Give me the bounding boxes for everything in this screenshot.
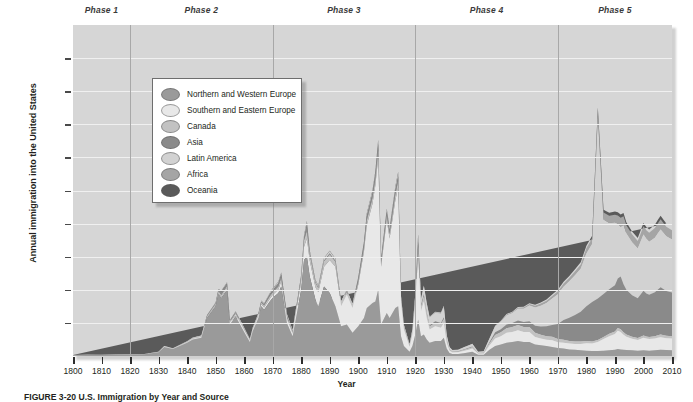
y-tick-mark [65,124,71,126]
phase-label-4: Phase 4 [415,5,558,15]
legend-item[interactable]: Southern and Eastern Europe [161,102,293,118]
x-tick-mark [672,357,674,364]
legend-swatch-icon [161,120,180,133]
y-tick-mark [65,157,71,159]
legend-swatch-icon [161,88,180,101]
x-tick-mark [444,357,446,364]
legend-label: Northern and Western Europe [187,90,296,99]
legend-label: Canada [187,122,216,131]
y-axis-title: Annual immigration into the United State… [28,33,38,313]
x-tick-mark [130,357,132,364]
x-tick-mark [615,357,617,364]
legend-label: Asia [187,138,203,147]
phase-divider [130,25,131,356]
legend-label: Southern and Eastern Europe [187,106,295,115]
y-tick-mark [65,58,71,60]
legend-item[interactable]: Oceania [161,182,293,198]
legend-swatch-icon [161,152,180,165]
x-tick-mark [358,357,360,364]
legend-label: Oceania [187,186,218,195]
x-tick-mark [73,357,75,364]
x-tick-mark [586,357,588,364]
y-tick-mark [65,257,71,259]
x-tick-mark [415,357,417,364]
y-tick-mark [65,290,71,292]
legend-swatch-icon [161,104,180,117]
phase-label-3: Phase 3 [273,5,416,15]
x-axis-title: Year [0,379,693,389]
x-tick-mark [387,357,389,364]
y-tick-mark [65,323,71,325]
phase-divider [558,25,559,356]
gridline [73,290,672,291]
y-tick-mark [65,224,71,226]
legend-swatch-icon [161,168,180,181]
legend-swatch-icon [161,136,180,149]
gridline [73,323,672,324]
figure-caption: FIGURE 3-20 U.S. Immigration by Year and… [24,392,664,402]
x-tick-mark [159,357,161,364]
x-tick-mark [187,357,189,364]
legend-swatch-icon [161,184,180,197]
y-tick-mark [65,91,71,93]
x-tick-mark [501,357,503,364]
x-tick-mark [301,357,303,364]
x-tick-mark [643,357,645,364]
gridline [73,257,672,258]
x-tick-mark [216,357,218,364]
x-tick-mark [472,357,474,364]
immigration-figure: Annual immigration into the United State… [0,0,693,402]
x-tick-mark [558,357,560,364]
x-tick-mark [102,357,104,364]
phase-label-2: Phase 2 [130,5,273,15]
gridline [73,58,672,59]
chart-legend: Northern and Western EuropeSouthern and … [152,78,302,203]
x-tick-label: 2010 [652,366,692,376]
phase-divider [415,25,416,356]
x-tick-mark [244,357,246,364]
legend-item[interactable]: Canada [161,118,293,134]
y-tick-mark [65,191,71,193]
legend-item[interactable]: Africa [161,166,293,182]
figure-caption-label: FIGURE 3-20 [24,392,76,402]
phase-label-1: Phase 1 [73,5,130,15]
x-tick-mark [273,357,275,364]
legend-label: Africa [187,170,208,179]
phase-label-5: Phase 5 [558,5,672,15]
x-tick-mark [330,357,332,364]
x-tick-mark [529,357,531,364]
legend-item[interactable]: Latin America [161,150,293,166]
gridline [73,224,672,225]
legend-label: Latin America [187,154,237,163]
legend-item[interactable]: Northern and Western Europe [161,86,293,102]
figure-caption-text: U.S. Immigration by Year and Source [78,392,228,402]
legend-item[interactable]: Asia [161,134,293,150]
